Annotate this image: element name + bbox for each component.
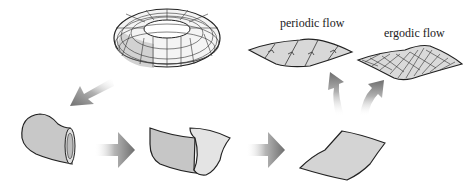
opened-sheet-icon	[150, 128, 230, 175]
ergodic-flow-label: ergodic flow	[384, 26, 445, 41]
arrow-right-icon	[94, 132, 135, 168]
periodic-flow-label: periodic flow	[280, 16, 344, 31]
tube-icon	[22, 114, 75, 164]
ergodic-flow-sheet-icon	[358, 46, 462, 80]
diagram-canvas: periodic flow ergodic flow	[0, 0, 475, 189]
arrow-up-right-icon	[360, 80, 384, 116]
arrow-down-left-icon	[70, 78, 114, 106]
flat-sheet-icon	[300, 131, 385, 180]
periodic-flow-sheet-icon	[249, 39, 352, 66]
arrow-up-left-icon	[328, 72, 344, 116]
arrow-right-icon	[246, 132, 285, 168]
torus-icon	[114, 9, 220, 68]
